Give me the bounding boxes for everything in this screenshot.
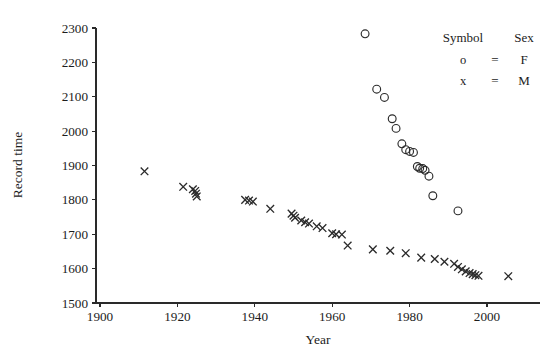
y-tick-label: 1900 xyxy=(62,158,89,173)
record-time-vs-year-scatter: 150016001700180019002000210022002300 190… xyxy=(0,0,555,358)
data-point-circle xyxy=(429,192,437,200)
y-tick-label: 2100 xyxy=(62,89,89,104)
data-point-cross xyxy=(369,246,377,254)
data-point-cross xyxy=(313,223,321,231)
scatter-chart-figure: 150016001700180019002000210022002300 190… xyxy=(0,0,555,358)
legend-header-symbol: Symbol xyxy=(443,30,484,45)
y-tick-label: 1800 xyxy=(62,192,89,207)
data-point-circle xyxy=(388,115,396,123)
x-tick-label: 1940 xyxy=(242,309,269,324)
legend-header-sex: Sex xyxy=(514,30,534,45)
data-point-cross xyxy=(386,247,394,255)
legend-equals-female: = xyxy=(491,52,498,67)
y-axis-title: Record time xyxy=(10,132,25,198)
x-tick-label: 1980 xyxy=(396,309,423,324)
data-points xyxy=(141,30,512,280)
y-tick-label: 2300 xyxy=(62,21,89,36)
data-point-circle xyxy=(381,94,389,102)
data-point-cross xyxy=(179,183,187,191)
legend-equals-male: = xyxy=(491,73,498,88)
legend-symbol-male: x xyxy=(460,74,467,88)
y-tick-label: 2000 xyxy=(62,124,89,139)
data-point-cross xyxy=(344,242,352,250)
data-point-cross xyxy=(402,249,410,257)
y-tick-label: 1700 xyxy=(62,227,89,242)
data-point-cross xyxy=(417,254,425,262)
data-point-cross xyxy=(319,224,327,232)
x-tick-label: 1900 xyxy=(87,309,114,324)
x-axis-title: Year xyxy=(306,332,331,347)
legend-symbol-female: o xyxy=(460,53,466,67)
data-point-cross xyxy=(141,168,149,176)
data-point-cross xyxy=(454,263,462,271)
y-tick-label: 2200 xyxy=(62,55,89,70)
data-point-cross xyxy=(441,258,449,266)
x-axis-ticks: 190019201940196019802000 xyxy=(87,303,501,324)
data-point-cross xyxy=(504,272,512,280)
data-point-circle xyxy=(373,85,381,93)
y-tick-label: 1600 xyxy=(62,261,89,276)
x-tick-label: 2000 xyxy=(474,309,501,324)
legend-value-male: M xyxy=(518,73,530,88)
data-point-circle xyxy=(361,30,369,38)
data-point-cross xyxy=(338,231,346,239)
axes xyxy=(96,28,540,303)
data-point-circle xyxy=(398,140,406,148)
y-tick-label: 1500 xyxy=(62,296,89,311)
x-tick-label: 1960 xyxy=(319,309,346,324)
data-point-cross xyxy=(266,205,274,213)
legend-value-female: F xyxy=(520,52,527,67)
series-f xyxy=(361,30,462,215)
data-point-cross xyxy=(431,255,439,263)
legend: Symbol Sex o = F x = M xyxy=(443,30,534,88)
data-point-circle xyxy=(392,124,400,132)
data-point-circle xyxy=(454,207,462,215)
y-axis-ticks: 150016001700180019002000210022002300 xyxy=(62,21,96,311)
series-m xyxy=(141,168,512,280)
data-point-circle xyxy=(425,172,433,180)
x-tick-label: 1920 xyxy=(164,309,191,324)
